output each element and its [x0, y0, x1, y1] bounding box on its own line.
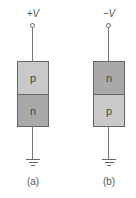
- p-region: p: [94, 94, 124, 126]
- ground-icon: [26, 159, 40, 168]
- wire-top: [108, 28, 109, 61]
- supply-label-negative: −V: [94, 8, 124, 19]
- n-region: n: [94, 62, 124, 94]
- p-region: p: [18, 62, 48, 94]
- supply-label-positive: +V: [18, 8, 48, 19]
- caption-b: (b): [94, 176, 124, 187]
- wire-bottom: [108, 126, 109, 159]
- n-region: n: [18, 94, 48, 126]
- wire-bottom: [32, 126, 33, 159]
- caption-a: (a): [18, 176, 48, 187]
- wire-top: [32, 28, 33, 61]
- diode-block: p n: [17, 61, 49, 127]
- ground-icon: [102, 159, 116, 168]
- diode-block: n p: [93, 61, 125, 127]
